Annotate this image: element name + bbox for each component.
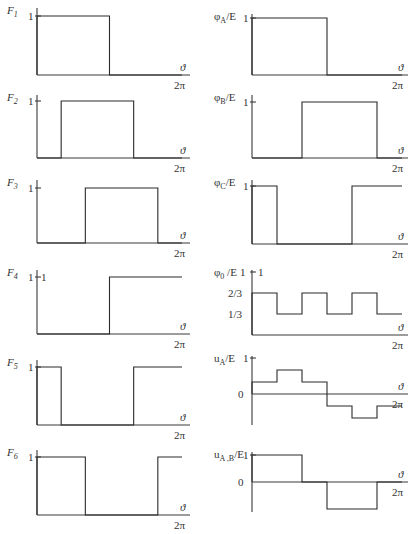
waveform-trace [252,18,402,75]
x-end-label: 2π [392,486,404,498]
svg-text:1: 1 [258,266,264,278]
x-end-label: 2π [174,247,186,259]
panel-title: F5 [6,356,18,371]
panel-title: uA/E [214,352,235,367]
waveform-panel-phiA: ϑ2πφA/E1 [214,10,408,91]
panel-title: φ0 /E [214,266,237,281]
y-tick-one: 1 [243,96,249,108]
y-tick-one: 1 [243,12,249,24]
panel-title: F2 [6,91,18,106]
waveform-panel-F5: ϑ2πF51 [6,356,190,441]
x-end-label: 2π [392,79,404,91]
x-end-label: 2π [174,338,186,350]
waveform-panel-phiB: ϑ2πφB/E1 [214,91,408,174]
y-tick-one: 1 [28,95,34,107]
x-variable-label: ϑ [398,468,404,480]
x-variable-label: ϑ [398,144,404,156]
waveform-panel-uA: ϑ2πuA/E10 [214,352,408,425]
x-variable-label: ϑ [180,144,186,156]
y-tick-one: 1 [28,361,34,373]
waveform-panel-uAB: ϑ2πuA ,B/E10 [214,448,408,512]
panel-title: φC/E [214,176,236,191]
x-end-label: 2π [392,339,404,351]
waveform-trace [252,102,402,158]
waveform-diagram: ϑ2πF11ϑ2πF21ϑ2πF31ϑ2πF411ϑ2πF51ϑ2πF61ϑ2π… [0,0,419,534]
waveform-trace [37,101,182,158]
y-tick-one: 1 [28,451,34,463]
x-variable-label: ϑ [180,411,186,423]
waveform-trace [37,367,182,425]
waveform-trace [37,16,182,75]
y-tick-one: 1 [28,271,34,283]
waveform-panel-phi0: ϑ2πφ0 /E112/31/3 [214,266,408,351]
waveform-trace [252,293,402,335]
x-variable-label: ϑ [180,501,186,513]
panel-title: φB/E [214,91,236,106]
y-tick-zero: 0 [238,388,244,400]
x-variable-label: ϑ [398,230,404,242]
x-variable-label: ϑ [398,61,404,73]
panel-title: F6 [6,446,18,461]
waveform-panel-phiC: ϑ2πφC/E1 [214,176,408,260]
x-variable-label: ϑ [180,229,186,241]
y-tick-one: 1 [28,10,34,22]
panel-title: F1 [6,4,18,19]
x-variable-label: ϑ [398,321,404,333]
x-end-label: 2π [392,398,404,410]
x-end-label: 2π [392,248,404,260]
waveform-panel-F4: ϑ2πF411 [6,266,190,350]
y-tick-one: 1 [240,266,246,278]
x-variable-label: ϑ [180,320,186,332]
panel-title: uA ,B/E [214,448,244,463]
svg-text:2/3: 2/3 [228,287,243,299]
y-tick-zero: 0 [238,476,244,488]
y-tick-one: 1 [243,449,249,461]
x-end-label: 2π [174,429,186,441]
waveform-panel-F6: ϑ2πF61 [6,446,190,531]
x-end-label: 2π [392,162,404,174]
waveform-panel-F2: ϑ2πF21 [6,91,190,174]
panel-title: F4 [6,266,18,281]
waveform-panel-F3: ϑ2πF31 [6,176,190,259]
x-variable-label: ϑ [180,61,186,73]
svg-text:1/3: 1/3 [228,308,243,320]
panel-title: φA/E [214,10,236,25]
x-variable-label: ϑ [398,380,404,392]
waveform-panel-F1: ϑ2πF11 [6,4,190,91]
waveform-trace [37,277,182,334]
x-end-label: 2π [174,162,186,174]
svg-text:1: 1 [41,271,47,283]
y-tick-one: 1 [243,352,249,364]
x-end-label: 2π [174,519,186,531]
y-tick-one: 1 [28,182,34,194]
waveform-trace [252,186,402,244]
waveform-trace [37,457,182,515]
x-end-label: 2π [174,79,186,91]
panel-title: F3 [6,176,18,191]
y-tick-one: 1 [243,180,249,192]
waveform-trace [37,188,182,243]
